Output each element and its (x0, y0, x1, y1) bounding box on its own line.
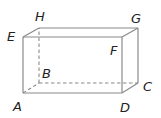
edge-CD (122, 83, 138, 93)
edge-EH (23, 28, 39, 37)
vertex-label-a: A (12, 99, 22, 114)
vertex-label-c: C (143, 79, 153, 94)
vertex-label-f: F (110, 43, 118, 58)
vertex-label-d: D (120, 100, 130, 115)
vertex-label-e: E (7, 29, 16, 44)
vertex-label-g: G (131, 11, 141, 26)
vertex-label-b: B (42, 66, 51, 81)
edge-AB (23, 83, 39, 93)
vertex-label-h: H (35, 9, 45, 24)
edge-GF (122, 28, 138, 37)
rectangular-prism-diagram: H G E F B C A D (0, 0, 161, 118)
